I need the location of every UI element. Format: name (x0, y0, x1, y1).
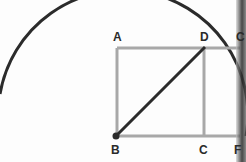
segment-bd (116, 47, 205, 136)
arc (0, 0, 246, 136)
label-f: F (234, 144, 241, 156)
label-a: A (113, 31, 122, 43)
label-top-right: C (236, 31, 245, 43)
geometry-diagram: A D C B C F (0, 0, 246, 162)
label-d: D (200, 31, 209, 43)
diagram-canvas (0, 0, 246, 162)
label-c: C (199, 144, 208, 156)
label-b: B (111, 144, 120, 156)
point-b (113, 133, 120, 140)
page-edge-shadow (236, 0, 246, 162)
